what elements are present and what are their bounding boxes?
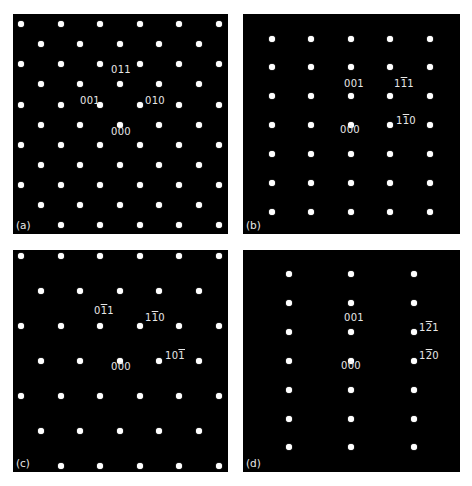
diffraction-spot [427,36,433,42]
diffraction-spot [97,323,103,329]
miller-index-label: 011 [111,65,131,75]
diffraction-spot [427,93,433,99]
miller-index-label: 000 [341,361,361,371]
diffraction-spot [216,102,222,108]
diffraction-spot [348,387,354,393]
panel-tag-b: (b) [246,220,261,231]
diffraction-spot [176,393,182,399]
diffraction-spot [269,151,275,157]
diffraction-spot [77,428,83,434]
diffraction-spot [18,253,24,259]
diffraction-spot [156,122,162,128]
diffraction-spot [176,323,182,329]
diffraction-spot [156,162,162,168]
diffraction-spot [38,41,44,47]
diffraction-spot [348,209,354,215]
diffraction-spot [156,202,162,208]
diffraction-spot [196,81,202,87]
diffraction-spot [196,122,202,128]
diffraction-spot [269,122,275,128]
diffraction-spot [387,122,393,128]
panel-c: 011110101000(c) [13,250,228,472]
diffraction-spot [176,463,182,469]
miller-index-label: 110 [396,116,416,126]
diffraction-spot [18,142,24,148]
diffraction-spot [216,61,222,67]
diffraction-spot [117,81,123,87]
diffraction-spot [196,162,202,168]
diffraction-spot [156,428,162,434]
diffraction-spot [58,323,64,329]
diffraction-spot [269,93,275,99]
diffraction-spot [411,300,417,306]
diffraction-spot [348,36,354,42]
diffraction-spot [196,428,202,434]
diffraction-spot [97,393,103,399]
diffraction-spot [156,81,162,87]
diffraction-spot [308,64,314,70]
diffraction-spot [387,180,393,186]
diffraction-spot [38,428,44,434]
diffraction-spot [348,329,354,335]
diffraction-spot [176,222,182,228]
diffraction-spot [176,61,182,67]
diffraction-spot [77,162,83,168]
diffraction-spot [308,151,314,157]
diffraction-spot [117,428,123,434]
diffraction-spot [77,202,83,208]
diffraction-spot [137,253,143,259]
diffraction-spot [411,329,417,335]
panel-tag-c: (c) [16,458,30,469]
miller-index-label: 000 [111,362,131,372]
diffraction-spot [196,202,202,208]
diffraction-spot [348,271,354,277]
diffraction-spot [117,41,123,47]
diffraction-spot [137,393,143,399]
diffraction-spot [117,202,123,208]
diffraction-spot [156,41,162,47]
diffraction-spot [216,182,222,188]
diffraction-spot [269,64,275,70]
diffraction-spot [216,222,222,228]
diffraction-spot [77,358,83,364]
diffraction-spot [18,102,24,108]
panel-tag-a: (a) [16,220,31,231]
diffraction-spot [38,358,44,364]
diffraction-spot [176,182,182,188]
diffraction-spot [348,300,354,306]
diffraction-spot [348,64,354,70]
diffraction-spot [176,21,182,27]
diffraction-spot [427,64,433,70]
diffraction-spot [77,288,83,294]
diffraction-spot [411,416,417,422]
diffraction-spot [137,142,143,148]
diffraction-spot [176,142,182,148]
diffraction-spot [286,444,292,450]
diffraction-spot [137,463,143,469]
diffraction-spot [38,122,44,128]
diffraction-spot [286,329,292,335]
diffraction-spot [348,151,354,157]
diffraction-spot [58,222,64,228]
panel-d: 001121120000(d) [243,250,460,472]
diffraction-spot [58,142,64,148]
miller-index-label: 120 [419,351,439,361]
diffraction-spot [348,93,354,99]
diffraction-spot [286,271,292,277]
miller-index-label: 121 [419,323,439,333]
diffraction-spot [286,358,292,364]
diffraction-spot [137,21,143,27]
diffraction-spot [269,209,275,215]
panel-tag-d: (d) [246,458,261,469]
diffraction-spot [38,162,44,168]
diffraction-spot [348,180,354,186]
miller-index-label: 001 [80,96,100,106]
miller-index-label: 111 [394,79,414,89]
diffraction-spot [348,416,354,422]
diffraction-spot [387,151,393,157]
diffraction-spot [308,180,314,186]
diffraction-spot [97,182,103,188]
diffraction-spot [58,61,64,67]
diffraction-spot [77,122,83,128]
diffraction-spot [97,61,103,67]
